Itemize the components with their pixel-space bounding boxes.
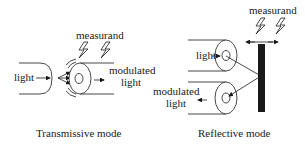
- input-light-label-transmissive: light: [14, 72, 34, 83]
- fiber-cross-section-icon: [215, 40, 237, 71]
- lightning-icon: [79, 42, 88, 58]
- output-label-line1-transmissive: modulated: [109, 65, 155, 76]
- fiber-cross-section-icon: [215, 82, 237, 114]
- reflector-bar: [258, 44, 265, 112]
- measurand-label-transmissive: measurand: [76, 30, 124, 41]
- fiber-cross-section-icon: [69, 63, 91, 94]
- reflective-diagram: [188, 18, 285, 114]
- lightning-icon: [276, 18, 285, 34]
- caption-reflective: Reflective mode: [198, 128, 270, 139]
- caption-transmissive: Transmissive mode: [36, 128, 121, 139]
- measurand-label-reflective: measurand: [249, 5, 297, 16]
- input-light-label-reflective: light: [196, 50, 216, 61]
- transmissive-diagram: [19, 42, 114, 97]
- output-label-line2-reflective: light: [166, 98, 186, 109]
- lightning-icon: [101, 42, 110, 58]
- output-label-line1-reflective: modulated: [153, 86, 199, 97]
- lightning-icon: [256, 18, 265, 34]
- output-label-line2-transmissive: light: [121, 77, 141, 88]
